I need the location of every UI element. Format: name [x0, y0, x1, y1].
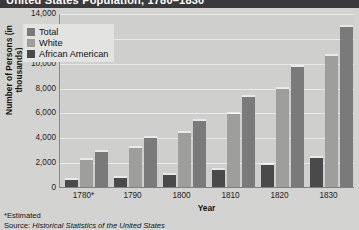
x-axis-tick-label: 1820 — [255, 191, 304, 200]
bar-highlight — [212, 168, 225, 170]
legend-label-total: Total — [39, 27, 58, 37]
gridline — [60, 89, 354, 90]
bar-highlight — [144, 136, 157, 138]
bar-highlight — [340, 25, 353, 27]
legend-label-white: White — [39, 38, 63, 48]
bar-highlight — [227, 112, 240, 114]
bar-total-1800 — [193, 121, 206, 187]
footnote-estimated: *Estimated — [4, 211, 165, 221]
x-axis-tick-label: 1780* — [59, 191, 108, 200]
legend-swatch-white — [27, 39, 35, 47]
y-axis-tick-label: 6,000 — [4, 108, 56, 117]
y-axis-tick-label: 4,000 — [4, 133, 56, 142]
x-axis-tick-label: 1790 — [108, 191, 157, 200]
x-axis-tick-label: 1810 — [206, 191, 255, 200]
bar-highlight — [325, 54, 338, 56]
bar-african-american-1810 — [212, 170, 225, 187]
source-label: Source: — [4, 221, 32, 230]
bar-white-1820 — [276, 89, 289, 187]
bar-highlight — [291, 65, 304, 67]
bar-african-american-1780 — [65, 180, 78, 187]
gridline — [60, 113, 354, 114]
y-axis-tick-label: 14,000 — [4, 9, 56, 18]
bar-white-1800 — [178, 133, 191, 187]
y-axis-tick-label: 0 — [4, 183, 56, 192]
footnote-source: Source: Historical Statistics of the Uni… — [4, 221, 165, 230]
bar-highlight — [80, 158, 93, 160]
bar-highlight — [114, 176, 127, 178]
bar-total-1810 — [242, 97, 255, 187]
bar-white-1830 — [325, 56, 338, 187]
bar-white-1790 — [129, 148, 142, 187]
legend-swatch-african-american — [27, 50, 35, 58]
bar-highlight — [310, 156, 323, 158]
figure-body: Number of Persons (in thousands) 14,0001… — [0, 8, 359, 229]
gridline — [60, 64, 354, 65]
chart-title-banner: United States Population, 1780–1830 — [0, 0, 359, 8]
bar-total-1820 — [291, 67, 304, 187]
gridline — [60, 14, 354, 15]
gridline — [60, 138, 354, 139]
bar-african-american-1830 — [310, 158, 323, 187]
chart-figure: United States Population, 1780–1830 Numb… — [0, 0, 359, 229]
bar-total-1790 — [144, 138, 157, 187]
legend-label-african-american: African American — [39, 49, 108, 59]
source-title: Historical Statistics of the United Stat… — [32, 221, 165, 230]
bar-highlight — [261, 163, 274, 165]
bar-highlight — [193, 119, 206, 121]
bar-highlight — [163, 173, 176, 175]
legend-swatch-total — [27, 28, 35, 36]
chart-title: United States Population, 1780–1830 — [6, 0, 204, 6]
legend-item-total: Total — [27, 27, 108, 37]
x-axis-tick-label: 1830 — [304, 191, 353, 200]
bar-african-american-1820 — [261, 165, 274, 187]
bar-highlight — [276, 87, 289, 89]
bar-highlight — [65, 178, 78, 180]
bar-white-1780 — [80, 160, 93, 187]
chart-footnotes: *Estimated Source: Historical Statistics… — [4, 211, 165, 229]
bar-total-1780 — [95, 152, 108, 187]
x-axis-tick-label: 1800 — [157, 191, 206, 200]
bar-african-american-1790 — [114, 178, 127, 187]
bar-white-1810 — [227, 114, 240, 187]
y-axis-tick-label: 8,000 — [4, 84, 56, 93]
bar-african-american-1800 — [163, 175, 176, 187]
legend-item-african-american: African American — [27, 49, 108, 59]
bar-highlight — [178, 131, 191, 133]
legend-item-white: White — [27, 38, 108, 48]
bar-highlight — [95, 150, 108, 152]
bar-highlight — [129, 146, 142, 148]
bar-total-1830 — [340, 27, 353, 187]
bar-highlight — [242, 95, 255, 97]
y-axis-tick-label: 2,000 — [4, 158, 56, 167]
chart-legend: Total White African American — [23, 24, 114, 62]
